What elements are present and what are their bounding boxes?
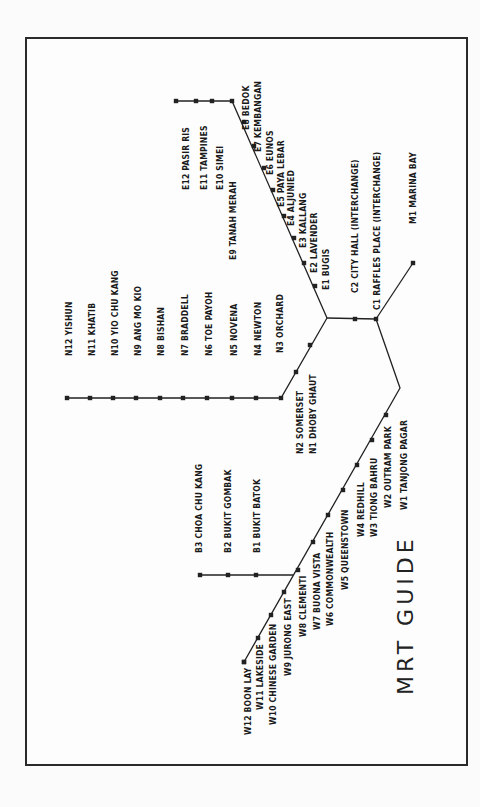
station-dot-n1 xyxy=(279,396,283,400)
station-dot-b3 xyxy=(198,573,202,577)
route-lines xyxy=(67,101,413,662)
station-label-e11: E11 TAMPINES xyxy=(200,125,209,190)
station-dot-w5 xyxy=(326,513,330,517)
station-label-n3: N3 ORCHARD xyxy=(276,294,285,353)
station-label-w4: W4 REDHILL xyxy=(357,482,366,537)
station-label-e9: E9 TANAH MERAH xyxy=(229,181,238,260)
station-dot-n10 xyxy=(111,396,115,400)
station-dot-b1 xyxy=(254,573,258,577)
map-title: MRT GUIDE xyxy=(393,535,418,695)
station-label-w3: W3 TIONG BAHRU xyxy=(370,458,379,537)
station-label-e10: E10 SIMEI xyxy=(216,146,225,190)
station-label-n5: N5 NOVENA xyxy=(230,304,239,356)
station-label-w6: W6 COMMONWEALTH xyxy=(326,532,335,626)
station-dot-w10 xyxy=(256,636,260,640)
station-label-n4: N4 NEWTON xyxy=(254,302,263,356)
station-label-n7: N7 BRADDELL xyxy=(181,294,190,356)
station-label-b1: B1 BUKIT BATOK xyxy=(253,479,262,553)
station-label-w10: W10 CHINESE GARDEN xyxy=(269,624,278,725)
central-line xyxy=(327,318,376,319)
station-dot-e3 xyxy=(292,236,296,240)
station-dot-b2 xyxy=(226,573,230,577)
station-dot-e1 xyxy=(313,284,317,288)
station-label-n2: N2 SOMERSET xyxy=(296,391,305,454)
station-label-n12: N12 YISHUN xyxy=(65,301,74,356)
station-label-w2: W2 OUTRAM PARK xyxy=(384,426,393,508)
station-label-e4: E4 ALJUNIED xyxy=(287,170,296,226)
station-dot-n11 xyxy=(88,396,92,400)
station-label-w11: W11 LAKESIDE xyxy=(256,644,265,710)
station-dot-n9 xyxy=(134,396,138,400)
station-label-w8: W8 CLEMENTI xyxy=(299,575,308,637)
station-label-e6: E6 EUNOS xyxy=(266,130,275,175)
station-label-n1: N1 DHOBY GHAUT xyxy=(309,374,318,454)
station-dot-e11 xyxy=(194,99,198,103)
station-dot-w4 xyxy=(341,488,345,492)
station-label-b2: B2 BUKIT GOMBAK xyxy=(224,469,233,553)
station-label-e5: E5 PAYA LEBAR xyxy=(277,140,286,207)
station-label-w12: W12 BOON LAY xyxy=(244,667,253,735)
north-line xyxy=(67,318,327,398)
station-dot-e9 xyxy=(230,99,234,103)
station-dot-w8 xyxy=(282,590,286,594)
station-dot-w12 xyxy=(242,660,246,664)
station-label-w1: W1 TANJONG PAGAR xyxy=(400,420,409,510)
station-dot-e2 xyxy=(302,261,306,265)
station-label-n10: N10 YIO CHU KANG xyxy=(111,270,120,356)
station-label-n11: N11 KHATIB xyxy=(88,303,97,356)
station-label-e1: E1 BUGIS xyxy=(322,249,331,290)
station-label-w7: W7 BUONA VISTA xyxy=(313,553,322,630)
station-dot-c2 xyxy=(353,317,357,321)
station-label-c1: C1 RAFFLES PLACE (INTERCHANGE) xyxy=(373,152,382,310)
station-label-n6: N6 TOE PAYOH xyxy=(205,292,214,356)
station-dot-n2 xyxy=(294,370,298,374)
station-label-b3: B3 CHOA CHU KANG xyxy=(195,464,204,553)
station-dot-n4 xyxy=(254,396,258,400)
station-label-e7: E7 KEMBANGAN xyxy=(254,81,263,152)
station-label-e12: E12 PASIR RIS xyxy=(182,127,191,190)
station-label-e8: E8 BEDOK xyxy=(242,85,251,130)
station-dot-w6 xyxy=(311,540,315,544)
station-dot-w3 xyxy=(355,463,359,467)
station-dot-w7 xyxy=(296,568,300,572)
station-dot-e5 xyxy=(271,188,275,192)
station-dot-w2 xyxy=(370,438,374,442)
station-dot-n3 xyxy=(308,343,312,347)
station-dot-n6 xyxy=(205,396,209,400)
station-dot-n8 xyxy=(158,396,162,400)
station-dot-n12 xyxy=(65,396,69,400)
station-label-e3: E3 KALLANG xyxy=(299,193,308,248)
station-dot-e12 xyxy=(174,99,178,103)
station-label-n9: N9 ANG MO KIO xyxy=(134,286,143,356)
station-label-n8: N8 BISHAN xyxy=(157,307,166,356)
station-label-c2: C2 CITY HALL (INTERCHANGE) xyxy=(351,159,360,293)
station-dot-n5 xyxy=(230,396,234,400)
station-label-e2: E2 LAVENDER xyxy=(310,212,319,273)
station-dot-m1 xyxy=(411,261,415,265)
station-label-w5: W5 QUEENSTOWN xyxy=(341,509,350,590)
station-dot-n7 xyxy=(181,396,185,400)
station-label-m1: M1 MARINA BAY xyxy=(409,152,418,224)
station-dot-c1 xyxy=(374,317,378,321)
station-dot-w9 xyxy=(269,613,273,617)
station-dot-e10 xyxy=(210,99,214,103)
station-dot-w1 xyxy=(384,413,388,417)
station-dots xyxy=(65,99,415,664)
station-label-w9: W9 JURONG EAST xyxy=(284,598,293,676)
